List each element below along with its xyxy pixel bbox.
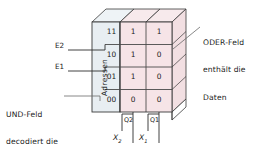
annotation-and-field-line-1: UND-Feld (6, 110, 58, 119)
data-cell-r0-c0: 1 (120, 27, 146, 36)
data-cell-r3-c0: 0 (120, 95, 146, 104)
signal-label-x1: X1 (139, 133, 148, 144)
output-label-q1: Q1 (150, 117, 159, 125)
annotation-or-field: ODER-Feld enthält die Daten (203, 19, 246, 121)
data-cell-r2-c0: 1 (120, 72, 146, 81)
annotation-or-field-line-1: ODER-Feld (203, 38, 246, 47)
annotation-and-field-line-2: decodiert die (6, 137, 58, 146)
address-value-row-0: 11 (103, 27, 120, 36)
annotation-and-field: UND-Feld decodiert die Adressen (6, 91, 58, 151)
output-label-q2: Q2 (124, 117, 133, 125)
signal-label-x2: X2 (113, 133, 122, 144)
data-cell-r1-c0: 1 (120, 50, 146, 59)
address-value-row-2: 01 (103, 72, 120, 81)
data-cell-r3-c1: 0 (146, 95, 172, 104)
data-cell-r0-c1: 1 (146, 27, 172, 36)
annotation-or-field-line-3: Daten (203, 93, 246, 102)
address-value-row-1: 10 (103, 50, 120, 59)
input-label-e2: E2 (55, 42, 64, 51)
signal-label-x2-subscript: 2 (118, 138, 121, 144)
address-value-row-3: 00 (103, 95, 120, 104)
annotation-or-field-line-2: enthält die (203, 65, 246, 74)
data-cell-r1-c1: 0 (146, 50, 172, 59)
data-cell-r2-c1: 0 (146, 72, 172, 81)
signal-label-x1-subscript: 1 (144, 138, 147, 144)
input-label-e1: E1 (55, 63, 64, 72)
diagram-canvas: Adressen 11 10 01 00 1 1 1 0 1 0 0 0 E2 … (0, 0, 267, 151)
